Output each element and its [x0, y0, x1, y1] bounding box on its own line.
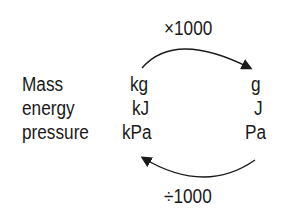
unit-kj: kJ	[132, 98, 149, 118]
multiply-factor-label: ×1000	[164, 18, 212, 38]
quantity-mass: Mass	[22, 74, 63, 94]
quantity-pressure: pressure	[22, 122, 89, 142]
unit-j: J	[254, 98, 263, 118]
quantity-energy: energy	[22, 98, 75, 118]
divide-arrow	[143, 158, 255, 177]
divide-factor-label: ÷1000	[164, 186, 212, 206]
unit-kg: kg	[130, 74, 148, 94]
unit-kpa: kPa	[122, 122, 152, 142]
unit-g: g	[251, 74, 261, 94]
unit-pa: Pa	[245, 122, 266, 142]
multiply-arrow	[142, 49, 250, 68]
